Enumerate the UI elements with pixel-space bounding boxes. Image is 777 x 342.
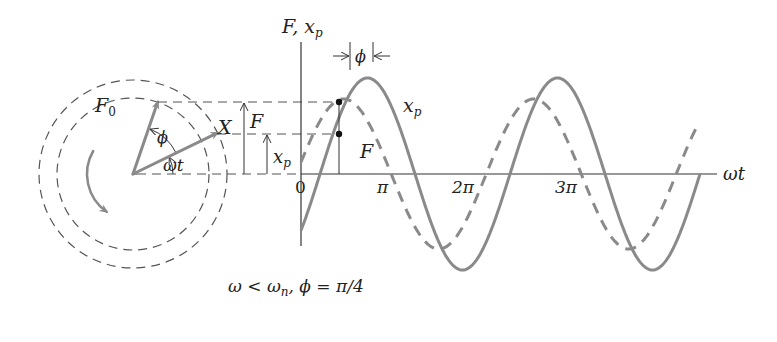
time-plot: F, xp ωt 0 π 2π 3π ϕ xp F [281,15,746,270]
phi-label: ϕ [157,128,168,147]
F-sample-dot [336,99,342,105]
y-axis-label: F, xp [281,15,323,40]
origin-label: 0 [295,177,306,197]
x-axis-label: ωt [723,163,746,184]
omega-t-label: ωt [163,155,184,175]
phase-label: ϕ [355,47,366,66]
rotation-direction-arrow-icon [87,151,107,212]
xp-projection-label: xp [273,146,291,170]
condition-caption: ω < ωn, ϕ = π/4 [228,276,364,299]
F0-label: F0 [94,94,116,119]
tick-label-3pi: 3π [555,177,578,197]
forced-vibration-diagram: F0 X ϕ ωt F xp F, xp ωt 0 π 2π 3π ϕ [0,0,777,342]
xp-curve-label: xp [403,94,422,119]
tick-label-2pi: 2π [451,177,475,197]
xp-sample-dot [336,131,342,137]
X-label: X [216,116,233,138]
F-projection-label: F [249,110,264,132]
tick-label-pi: π [376,177,389,197]
F-curve-label: F [359,140,374,162]
